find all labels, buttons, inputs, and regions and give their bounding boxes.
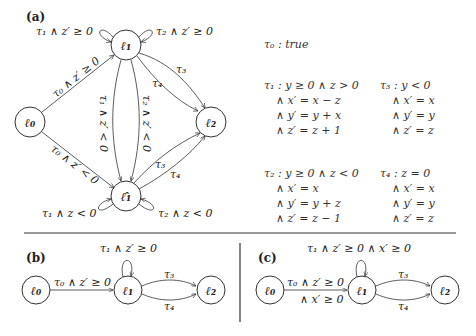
edge-loop-l1hat-right [139, 199, 154, 210]
svg-text:ℓ₁: ℓ₁ [357, 284, 367, 298]
panel-c-label: (c) [258, 251, 277, 265]
svg-text:ℓ₂: ℓ₂ [206, 284, 216, 298]
edge-label-l0-l1hat: τ₀ ∧ z′ < 0 [48, 142, 101, 187]
edge-label-loop-l1: τ₁ ∧ z′ ≥ 0 [100, 242, 157, 255]
edge-loop-l1hat-left [98, 199, 113, 210]
edge-label-l1-l2-bottom: τ₄ [398, 300, 409, 313]
svg-text:τ₁ : y ≥ 0 ∧ z > 0: τ₁ : y ≥ 0 ∧ z > 0 [264, 79, 359, 92]
tau3-definition: τ₃ : y < 0 ∧ x′ = x ∧ y′ = y ∧ z′ = z [380, 79, 435, 137]
svg-text:∧ y′ = y: ∧ y′ = y [392, 197, 435, 210]
panel-b-label: (b) [26, 251, 46, 265]
node-l0: ℓ₀ [256, 276, 284, 304]
edge-label-l1-l2-bottom: τ₄ [164, 300, 175, 313]
svg-text:ℓ₀: ℓ₀ [25, 116, 36, 130]
edge-label-l1-l2-bottom: τ₄ [152, 77, 163, 90]
edge-loop-l1 [356, 260, 366, 277]
node-l2: ℓ₂ [197, 276, 225, 304]
tau1-definition: τ₁ : y ≥ 0 ∧ z > 0 ∧ x′ = x − z ∧ y′ = y… [264, 79, 359, 137]
tau2-definition: τ₂ : y ≥ 0 ∧ z < 0 ∧ x′ = x ∧ y′ = y + z… [264, 167, 359, 225]
edge-loop-l1-left [100, 30, 113, 42]
svg-text:∧ x′ = x: ∧ x′ = x [392, 182, 435, 195]
tau0-definition: τ₀ : true [264, 38, 309, 51]
edge-label-loop-l1hat-right: τ₂ ∧ z < 0 [158, 207, 213, 220]
svg-text:τ₂ : y ≥ 0 ∧ z < 0: τ₂ : y ≥ 0 ∧ z < 0 [264, 167, 359, 180]
edge-label-l1-l2-top: τ₃ [398, 268, 409, 281]
edge-label-l1-l2-top: τ₃ [176, 63, 187, 76]
tau4-definition: τ₄ : z = 0 ∧ x′ = x ∧ y′ = y ∧ z′ = z [380, 167, 435, 225]
svg-text:τ₄ : z = 0: τ₄ : z = 0 [380, 167, 430, 180]
edge-label-l0-l1: τ₀ ∧ z′ ≥ 0 [54, 276, 111, 289]
edge-label-l1hat-l2-bottom: τ₄ [170, 168, 181, 181]
edge-l1-l1hat-right [131, 60, 139, 181]
svg-text:ℓ₀: ℓ₀ [31, 284, 42, 298]
panel-b: (b) τ₁ ∧ z′ ≥ 0 ℓ₀ ℓ₁ ℓ₂ τ₀ ∧ z′ ≥ 0 τ₃ … [22, 242, 225, 313]
node-l2: ℓ₂ [196, 107, 226, 137]
edge-label-l1-l1hat-left: τ₁ ∧ z′ < 0 [97, 95, 110, 152]
svg-text:τ₃ : y < 0: τ₃ : y < 0 [380, 79, 431, 92]
edge-label-loop-l1hat-left: τ₁ ∧ z < 0 [42, 207, 97, 220]
edge-label-loop-l1-left: τ₁ ∧ z′ ≥ 0 [36, 25, 93, 38]
node-l1: ℓ₁ [111, 30, 141, 60]
edge-l1-l1hat-left [113, 60, 121, 181]
edge-label-l1-l2-top: τ₃ [164, 268, 175, 281]
node-l1: ℓ₁ [348, 276, 376, 304]
edge-label-l1-l1hat-right: τ₂ ∧ z′ < 0 [140, 95, 153, 152]
svg-text:ℓ₁: ℓ₁ [123, 284, 133, 298]
svg-text:∧ z′ = z: ∧ z′ = z [392, 124, 434, 137]
node-l0: ℓ₀ [22, 276, 50, 304]
edge-label-l0-l1: τ₀ ∧ z′ ≥ 0 [50, 54, 103, 100]
svg-text:∧ x′ = x − z: ∧ x′ = x − z [276, 94, 341, 107]
svg-text:∧ z′ = z: ∧ z′ = z [392, 212, 434, 225]
edge-loop-l1-right [139, 30, 152, 42]
svg-text:∧ y′ = y: ∧ y′ = y [392, 109, 435, 122]
node-l0: ℓ₀ [15, 107, 45, 137]
node-l2: ℓ₂ [431, 276, 459, 304]
panel-a: (a) ℓ₁ ℓ₀ ℓ₂ ℓ̂₁ τ₁ ∧ z′ ≥ 0 τ₂ ∧ z′ ≥ 0… [15, 10, 435, 225]
edge-label-loop-l1: τ₁ ∧ z′ ≥ 0 ∧ x′ ≥ 0 [307, 242, 411, 255]
svg-text:∧ x′ = x: ∧ x′ = x [276, 182, 319, 195]
svg-text:ℓ₀: ℓ₀ [265, 284, 276, 298]
svg-text:∧ y′ = y + x: ∧ y′ = y + x [276, 109, 342, 122]
panel-a-label: (a) [26, 10, 45, 24]
svg-text:ℓ₂: ℓ₂ [440, 284, 450, 298]
edge-label-l0-l1-line1: τ₀ ∧ z′ ≥ 0 [287, 276, 344, 289]
svg-text:ℓ₁: ℓ₁ [121, 39, 131, 53]
svg-text:∧ x′ = x: ∧ x′ = x [392, 94, 435, 107]
edge-label-loop-l1-right: τ₂ ∧ z′ ≥ 0 [156, 25, 213, 38]
svg-text:ℓ̂₁: ℓ̂₁ [121, 190, 131, 204]
node-l1: ℓ₁ [114, 276, 142, 304]
edge-label-l0-l1-line2: ∧ x′ ≥ 0 [300, 293, 343, 306]
svg-text:∧ z′ = z + 1: ∧ z′ = z + 1 [276, 124, 341, 137]
svg-text:∧ y′ = y + z: ∧ y′ = y + z [276, 197, 341, 210]
edge-loop-l1 [122, 260, 132, 277]
svg-text:∧ z′ = z − 1: ∧ z′ = z − 1 [276, 212, 341, 225]
edge-label-l1hat-l2-top: τ₃ [155, 158, 166, 171]
panel-c: (c) τ₁ ∧ z′ ≥ 0 ∧ x′ ≥ 0 ℓ₀ ℓ₁ ℓ₂ τ₀ ∧ z… [256, 242, 459, 313]
svg-text:ℓ₂: ℓ₂ [206, 116, 216, 130]
node-l1hat: ℓ̂₁ [111, 181, 141, 211]
